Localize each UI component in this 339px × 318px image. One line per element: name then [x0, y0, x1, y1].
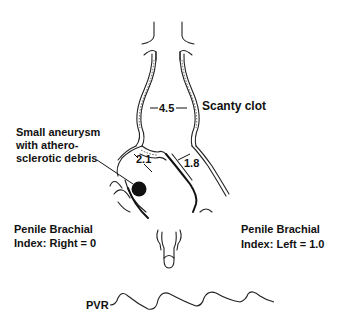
left-iliac-diameter-marker: 1.8 [178, 154, 199, 169]
aortoiliac-diagram: 4.5 Scanty clot 2.1 1.8 Small aneurysm [0, 0, 339, 318]
renal-branches [142, 22, 194, 60]
left-iliac [166, 146, 229, 212]
penis-outline [157, 230, 181, 268]
aneurysm-label-line3: sclerotic debris [16, 152, 97, 164]
aortic-diameter-label: 4.5 [159, 102, 174, 114]
pbi-right-line1: Penile Brachial [14, 223, 93, 235]
aorta [136, 52, 199, 146]
pbi-right: Penile Brachial Index: Right = 0 [14, 223, 96, 249]
aneurysm-label: Small aneurysm with athero- sclerotic de… [15, 126, 101, 164]
aneurysm-mark [132, 182, 147, 197]
aneurysm-leader [97, 160, 133, 184]
pbi-left-line2: Index: Left = 1.0 [241, 238, 324, 250]
pbi-right-line2: Index: Right = 0 [14, 237, 96, 249]
pbi-left-line1: Penile Brachial [241, 223, 320, 235]
aneurysm-label-line2: with athero- [15, 139, 79, 151]
right-iliac-diameter-marker: 2.1 [134, 153, 152, 172]
pvr-label: PVR [86, 299, 109, 311]
aortic-diameter-marker: 4.5 [150, 102, 187, 114]
right-iliac-diameter-label: 2.1 [136, 153, 151, 165]
scanty-clot-label: Scanty clot [202, 99, 266, 113]
pbi-left: Penile Brachial Index: Left = 1.0 [241, 223, 324, 250]
aneurysm-label-line1: Small aneurysm [16, 126, 101, 138]
pvr-waveform [110, 292, 274, 309]
left-iliac-diameter-label: 1.8 [184, 157, 199, 169]
